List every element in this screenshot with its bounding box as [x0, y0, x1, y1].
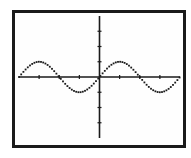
graph-plot	[0, 0, 191, 158]
axes	[19, 16, 180, 138]
